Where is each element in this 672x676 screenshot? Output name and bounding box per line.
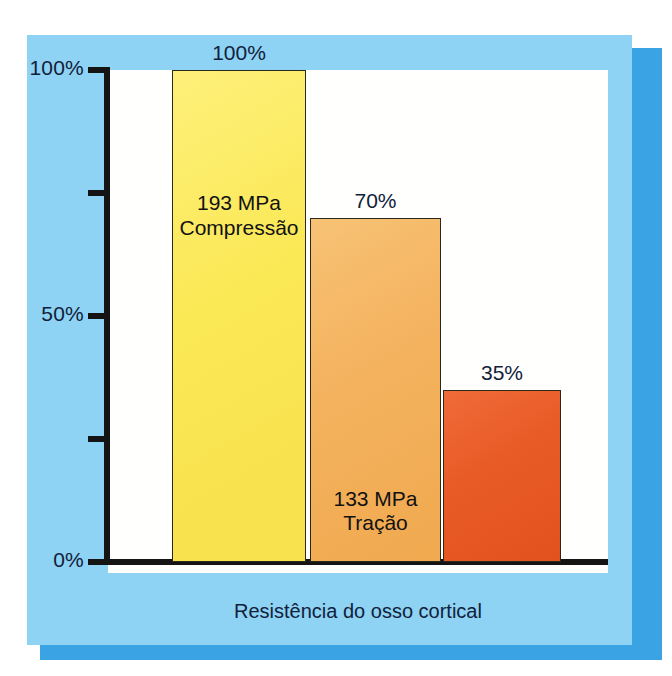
y-tick-label-50: 50% bbox=[41, 302, 84, 326]
y-tick-25 bbox=[88, 436, 110, 442]
bar-percent-label: 35% bbox=[443, 361, 561, 385]
bar-category-text: Compressão bbox=[173, 216, 305, 241]
y-tick-100 bbox=[88, 67, 110, 73]
y-tick-75 bbox=[88, 190, 110, 196]
y-tick-label-0: 0% bbox=[53, 548, 84, 572]
bar-label: 133 MPaTração bbox=[311, 487, 440, 537]
bar-tração[interactable]: 133 MPaTração bbox=[310, 218, 441, 562]
bar-label: 193 MPaCompressão bbox=[173, 191, 305, 241]
y-tick-label-100: 100% bbox=[29, 56, 84, 80]
bar-percent-label: 100% bbox=[172, 41, 306, 65]
bar-value-text: 193 MPa bbox=[173, 191, 305, 216]
bar-value-text: 133 MPa bbox=[311, 487, 440, 512]
bar-percent-label: 70% bbox=[310, 189, 441, 213]
bar-compressão[interactable]: 193 MPaCompressão bbox=[172, 70, 306, 562]
bar-group: 193 MPaCompressão133 MPaTração68 MPaCisa… bbox=[108, 70, 608, 562]
bar-cisalhamento[interactable]: 68 MPaCisalhamento bbox=[443, 390, 561, 562]
bar-category-text: Tração bbox=[311, 511, 440, 536]
y-tick-50 bbox=[88, 313, 110, 319]
chart-figure: 100%50%0% 193 MPaCompressão133 MPaTração… bbox=[0, 0, 672, 676]
y-tick-0 bbox=[88, 559, 110, 565]
chart-caption: Resistência do osso cortical bbox=[108, 600, 608, 623]
